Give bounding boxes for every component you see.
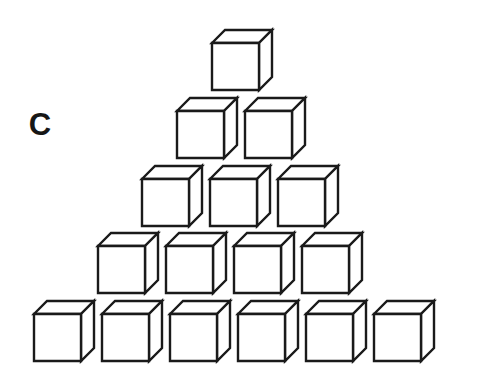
cube-front-face	[234, 246, 281, 293]
cube-icon	[278, 166, 338, 226]
cube-front-face	[210, 179, 257, 226]
cube-front-face	[306, 314, 353, 361]
cube-row-row-third	[142, 166, 338, 226]
cube-icon	[177, 98, 237, 158]
cube-front-face	[177, 111, 224, 158]
panel-label-c: C	[29, 107, 51, 142]
cube-icon	[212, 30, 272, 90]
cube-pyramid-canvas: C	[0, 0, 477, 380]
cube-front-face	[142, 179, 189, 226]
cube-icon	[245, 98, 305, 158]
cube-icon	[306, 301, 366, 361]
cube-front-face	[170, 314, 217, 361]
cube-icon	[302, 233, 362, 293]
cube-pyramid-figure: C	[0, 0, 477, 380]
cube-icon	[170, 301, 230, 361]
cube-icon	[102, 301, 162, 361]
cube-front-face	[98, 246, 145, 293]
cube-icon	[234, 233, 294, 293]
cube-icon	[34, 301, 94, 361]
cube-front-face	[34, 314, 81, 361]
cube-front-face	[278, 179, 325, 226]
cube-icon	[238, 301, 298, 361]
cube-icon	[142, 166, 202, 226]
cube-front-face	[238, 314, 285, 361]
cube-icon	[374, 301, 434, 361]
cube-front-face	[102, 314, 149, 361]
cube-icon	[98, 233, 158, 293]
cube-row-row-top	[212, 30, 272, 90]
cube-front-face	[212, 43, 259, 90]
cube-front-face	[166, 246, 213, 293]
cube-icon	[166, 233, 226, 293]
cube-front-face	[245, 111, 292, 158]
cube-front-face	[302, 246, 349, 293]
cube-icon	[210, 166, 270, 226]
cube-front-face	[374, 314, 421, 361]
